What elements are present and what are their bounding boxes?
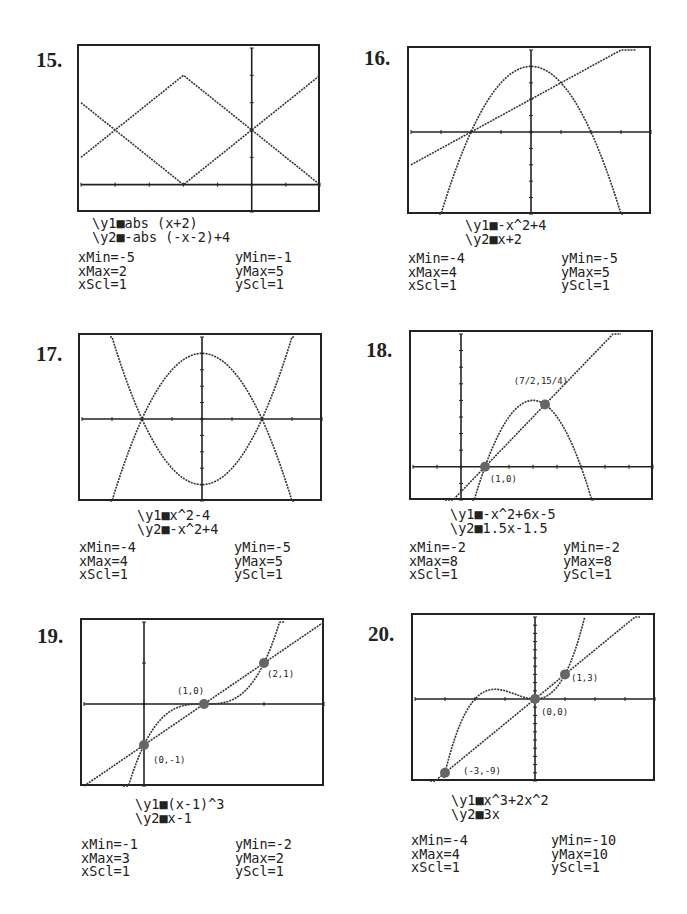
problem-number: 19. [37,624,63,649]
graph-screen [407,46,651,214]
yscl: yScl=1 [235,278,292,292]
point-label: (2,1) [267,669,294,679]
equation-y2: \y2■1.5x-1.5 [450,521,556,535]
equations: \y1■x^2-4\y2■-x^2+4 [137,508,218,536]
yscl: yScl=1 [561,279,618,293]
window-settings-y: yMin=-2yMax=2yScl=1 [235,838,292,879]
window-settings-y: yMin=-1yMax=5yScl=1 [235,251,292,292]
equation-y2: \y2■3x [451,807,549,821]
equation-y1: \y1■(x-1)^3 [135,797,224,811]
equation-y2: \y2■-x^2+4 [137,522,218,536]
curve-y2 [81,75,320,184]
point-label: (1,3) [571,673,598,683]
point-label: (0,0) [541,707,568,717]
intersection-point [259,658,269,668]
window-settings-y: yMin=-5yMax=5yScl=1 [234,541,291,582]
equation-y1: \y1■x^3+2x^2 [451,793,549,807]
xscl: xScl=1 [81,865,138,879]
window-settings: xMin=-1xMax=3xScl=1 [81,838,138,879]
intersection-point [560,669,570,679]
intersection-point [530,694,540,704]
yscl: yScl=1 [551,861,616,875]
graph-screen [77,44,320,212]
yscl: yScl=1 [234,568,291,582]
window-settings: xMin=-4xMax=4xScl=1 [411,834,468,875]
equation-y1: \y1■x^2-4 [137,508,218,522]
window-settings-y: yMin=-5yMax=5yScl=1 [561,252,618,293]
problem-number: 20. [368,622,394,647]
graph-screen: (1,0)(2,1)(0,-1) [80,618,324,786]
intersection-point [440,768,450,778]
graph-screen: (1,3)(0,0)(-3,-9) [411,613,655,781]
window-settings-y: yMin=-10yMax=10yScl=1 [551,834,616,875]
window-settings: xMin=-4xMax=4xScl=1 [79,541,136,582]
equation-y2: \y2■-abs (-x-2)+4 [92,230,230,244]
window-settings: xMin=-4xMax=4xScl=1 [408,252,465,293]
point-label: (1,0) [177,686,204,696]
yscl: yScl=1 [563,568,620,582]
graph-screen [78,333,322,501]
window-settings: xMin=-5xMax=2xScl=1 [78,251,135,292]
window-settings: xMin=-2xMax=8xScl=1 [409,541,466,582]
equation-y2: \y2■x-1 [135,811,224,825]
equation-y1: \y1■abs (x+2) [92,216,230,230]
equation-y1: \y1■-x^2+4 [465,218,546,232]
yscl: yScl=1 [235,865,292,879]
equation-y1: \y1■-x^2+6x-5 [450,507,556,521]
xscl: xScl=1 [408,279,465,293]
curve-y1 [81,75,320,184]
xscl: xScl=1 [79,568,136,582]
intersection-point [540,400,550,410]
intersection-point [139,740,149,750]
problem-number: 17. [36,342,62,367]
equation-y2: \y2■x+2 [465,232,546,246]
problem-number: 15. [36,48,62,73]
graph-screen: (7/2,15/4)(1,0) [409,330,653,500]
xscl: xScl=1 [78,278,135,292]
equations: \y1■-x^2+4\y2■x+2 [465,218,546,246]
xscl: xScl=1 [411,861,468,875]
equations: \y1■-x^2+6x-5\y2■1.5x-1.5 [450,507,556,535]
equations: \y1■x^3+2x^2\y2■3x [451,793,549,821]
problem-number: 16. [364,46,390,71]
point-label: (7/2,15/4) [514,376,568,386]
curve-y2 [445,334,621,500]
problem-number: 18. [366,338,392,363]
equations: \y1■(x-1)^3\y2■x-1 [135,797,224,825]
point-label: (1,0) [490,474,517,484]
point-label: (0,-1) [153,755,186,765]
xscl: xScl=1 [409,568,466,582]
intersection-point [480,462,490,472]
curve-y1 [472,400,594,500]
intersection-point [199,699,209,709]
window-settings-y: yMin=-2yMax=8yScl=1 [563,541,620,582]
equations: \y1■abs (x+2)\y2■-abs (-x-2)+4 [92,216,230,244]
point-label: (-3,-9) [463,766,501,776]
